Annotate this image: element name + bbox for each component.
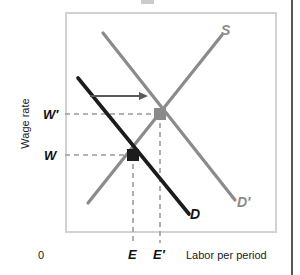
y-tick-label-w: W [44,149,56,162]
curve-label-demand-shifted: D′ [237,195,250,209]
origin-label: 0 [38,250,44,261]
x-axis-label: Labor per period [186,250,267,261]
equilibrium-marker-initial [127,149,139,161]
curve-label-demand-initial: D [190,207,200,221]
equilibrium-marker-new [154,108,166,120]
x-tick-label-e-prime: E′ [153,248,165,261]
page-edge-rule [291,0,293,275]
demand-curve-shifted [103,33,235,200]
y-axis-label: Wage rate [20,79,31,169]
figure-canvas: Wage rate Labor per period 0 W′ W E E′ S… [0,0,300,275]
chart-svg [0,0,300,275]
shift-arrow-icon [90,92,148,100]
curve-label-supply: S [221,23,230,37]
x-tick-label-e: E [128,248,137,261]
y-tick-label-w-prime: W′ [43,108,58,121]
